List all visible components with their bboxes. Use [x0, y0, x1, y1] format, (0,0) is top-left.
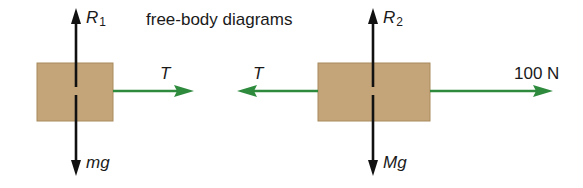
applied-force-arrowhead-icon: [533, 85, 553, 97]
block-2-down-arrowhead-icon: [368, 160, 378, 176]
block-1-down-arrowhead-icon: [71, 160, 81, 176]
block-2-up-arrowhead-icon: [368, 8, 378, 24]
force-symbol: R: [86, 8, 98, 27]
force-subscript: 2: [396, 15, 403, 29]
block-2-normal-force-label: R2: [383, 8, 403, 29]
block-1-up-arrowhead-icon: [71, 8, 81, 24]
applied-force-label: 100 N: [514, 64, 559, 84]
block-1-tension-label: T: [160, 64, 170, 84]
block-2-weight-label: Mg: [383, 153, 407, 173]
force-symbol: R: [383, 8, 395, 27]
force-subscript: 1: [99, 15, 106, 29]
block-1-normal-force-label: R1: [86, 8, 106, 29]
block-1-tension-arrowhead-icon: [174, 85, 194, 97]
block-1-weight-label: mg: [86, 153, 110, 173]
diagram-title: free-body diagrams: [146, 10, 292, 30]
block-2-tension-label: T: [253, 64, 263, 84]
block-2-tension-arrowhead-icon: [237, 85, 257, 97]
